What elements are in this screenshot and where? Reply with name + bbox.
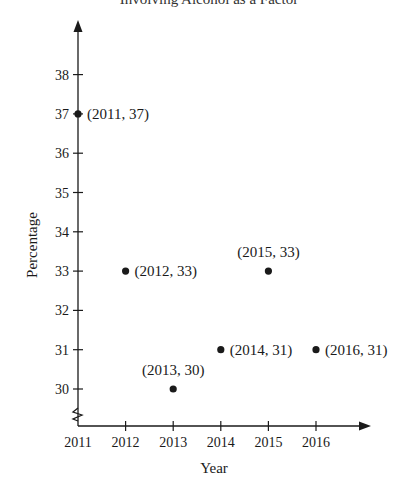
y-tick-label: 36 bbox=[55, 146, 69, 161]
x-tick-label: 2015 bbox=[254, 435, 282, 450]
x-tick-label: 2016 bbox=[302, 435, 330, 450]
data-point-label: (2015, 33) bbox=[237, 244, 300, 261]
scatter-chart: 303132333435363738 201120122013201420152… bbox=[0, 0, 418, 497]
y-tick-label: 37 bbox=[55, 107, 69, 122]
x-tick-label: 2011 bbox=[64, 435, 91, 450]
x-tick-label: 2013 bbox=[159, 435, 187, 450]
x-axis-label: Year bbox=[200, 460, 228, 476]
y-tick-label: 34 bbox=[55, 225, 69, 240]
y-tick-label: 33 bbox=[55, 264, 69, 279]
x-tick-label: 2012 bbox=[112, 435, 140, 450]
data-point bbox=[74, 110, 81, 117]
data-point-label: (2013, 30) bbox=[142, 362, 205, 379]
data-point bbox=[122, 268, 129, 275]
data-point bbox=[265, 268, 272, 275]
data-point-label: (2012, 33) bbox=[135, 263, 198, 280]
y-tick-label: 38 bbox=[55, 68, 69, 83]
data-point bbox=[217, 346, 224, 353]
data-point bbox=[170, 385, 177, 392]
data-points: (2011, 37)(2012, 33)(2013, 30)(2014, 31)… bbox=[74, 106, 387, 393]
axes bbox=[73, 20, 371, 431]
y-axis-arrow-icon bbox=[74, 20, 83, 32]
y-tick-label: 32 bbox=[55, 303, 69, 318]
y-tick-label: 31 bbox=[55, 343, 69, 358]
y-tick-label: 35 bbox=[55, 186, 69, 201]
data-point bbox=[312, 346, 319, 353]
y-tick-label: 30 bbox=[55, 382, 69, 397]
data-point-label: (2011, 37) bbox=[87, 106, 149, 123]
x-axis-arrow-icon bbox=[359, 422, 371, 431]
data-point-label: (2014, 31) bbox=[230, 342, 292, 359]
y-axis-label: Percentage bbox=[24, 212, 40, 278]
data-point-label: (2016, 31) bbox=[325, 342, 388, 359]
x-tick-label: 2014 bbox=[207, 435, 235, 450]
